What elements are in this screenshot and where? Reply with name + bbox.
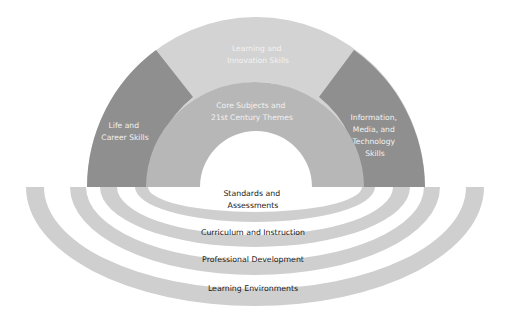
- label-learning-environments: Learning Environments: [208, 284, 298, 293]
- p21-framework-diagram: Learning and Innovation Skills Life and …: [0, 0, 510, 325]
- label-curriculum-instruction: Curriculum and Instruction: [201, 228, 305, 237]
- label-professional-development: Professional Development: [202, 255, 304, 264]
- label-standards-assessments: Standards and Assessments: [223, 189, 282, 210]
